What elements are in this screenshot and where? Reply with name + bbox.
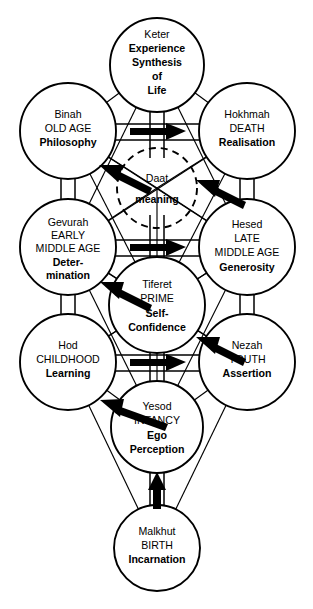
- binah-stage: OLD AGE: [45, 122, 92, 134]
- keter-quality-line-2: Synthesis: [132, 56, 182, 68]
- arrow-gevurah-to-hesed: [130, 239, 186, 256]
- gevurah-stage-line-1: EARLY: [51, 229, 85, 241]
- tree-of-life-diagram: Keter Experience Synthesis of Life Binah…: [0, 0, 313, 609]
- hesed-stage-line-1: LATE: [234, 232, 260, 244]
- malkhut-name: Malkhut: [138, 525, 175, 537]
- hesed-name: Hesed: [232, 218, 263, 230]
- hokhmah-stage: DEATH: [229, 122, 264, 134]
- hesed-stage-line-2: MIDDLE AGE: [215, 246, 280, 258]
- arrow-hesed-to-daat: [196, 180, 246, 209]
- yesod-quality-line-1: Ego: [147, 429, 168, 441]
- binah-quality: Philosophy: [39, 136, 96, 148]
- hokhmah-quality: Realisation: [219, 136, 276, 148]
- tiferet-name: Tiferet: [142, 278, 172, 290]
- sephira-tiferet[interactable]: [109, 257, 205, 353]
- nezah-quality: Assertion: [223, 367, 272, 379]
- arrow-binah-to-hokhmah: [130, 123, 186, 140]
- daat-name: Daat: [146, 172, 168, 184]
- gevurah-quality-line-1: Deter-: [53, 256, 84, 268]
- malkhut-stage: BIRTH: [141, 539, 173, 551]
- yesod-stage: INFANCY: [134, 414, 180, 426]
- nezah-name: Nezah: [232, 339, 263, 351]
- binah-name: Binah: [54, 108, 81, 120]
- gevurah-name: Gevurah: [48, 216, 89, 228]
- hesed-quality: Generosity: [219, 261, 274, 273]
- hod-name: Hod: [58, 339, 78, 351]
- hod-quality: Learning: [46, 367, 91, 379]
- keter-quality-line-3: of: [152, 70, 162, 82]
- hod-stage: CHILDHOOD: [36, 353, 100, 365]
- yesod-name: Yesod: [142, 400, 171, 412]
- keter-name: Keter: [144, 28, 170, 40]
- gevurah-quality-line-2: mination: [46, 269, 90, 281]
- tiferet-stage: PRIME: [140, 292, 174, 304]
- hokhmah-name: Hokhmah: [224, 108, 269, 120]
- tree-of-life-canvas: Keter Experience Synthesis of Life Binah…: [0, 0, 313, 609]
- daat-quality: meaning: [135, 193, 179, 205]
- gevurah-stage-line-2: MIDDLE AGE: [36, 242, 101, 254]
- tiferet-quality-line-1: Self-: [146, 307, 169, 319]
- malkhut-quality: Incarnation: [128, 553, 185, 565]
- arrow-hod-to-nezah: [130, 354, 186, 371]
- yesod-quality-line-2: Perception: [130, 443, 185, 455]
- nezah-stage: YOUTH: [228, 353, 265, 365]
- keter-quality-line-1: Experience: [129, 42, 186, 54]
- tiferet-quality-line-2: Confidence: [128, 321, 186, 333]
- keter-quality-line-4: Life: [148, 84, 167, 96]
